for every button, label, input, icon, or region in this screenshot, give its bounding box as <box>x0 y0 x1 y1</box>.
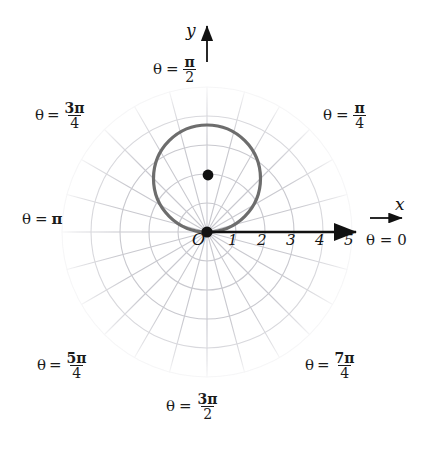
theta-symbol: θ <box>323 108 332 123</box>
grid-ray-255 <box>170 232 208 372</box>
grid-ray-240 <box>135 232 208 358</box>
radial-tick-2: 2 <box>257 233 267 248</box>
angle-label-pi-over-4: θ = π 4 <box>323 101 367 131</box>
fraction-numerator: π <box>353 101 367 115</box>
fraction: π 2 <box>183 55 197 85</box>
origin-label: O <box>192 232 205 248</box>
angle-label-5pi-over-4: θ = 5π 4 <box>37 351 89 381</box>
theta-symbol: θ <box>35 108 44 123</box>
equals-symbol: = <box>166 62 179 77</box>
angle-label-3pi-over-4: θ = 3π 4 <box>35 101 87 131</box>
fraction-numerator: 3π <box>63 101 87 115</box>
x-axis-label: x <box>395 196 405 213</box>
grid-ray-285 <box>207 232 245 372</box>
angle-label-7pi-over-4: θ = 7π 4 <box>305 351 357 381</box>
angle-label-pi: θ = π <box>22 212 63 227</box>
fraction-denominator: 2 <box>201 406 214 421</box>
grid-ray-105 <box>170 92 208 232</box>
radial-tick-3: 3 <box>286 233 296 248</box>
fraction: 3π 4 <box>63 101 87 131</box>
fraction-denominator: 4 <box>353 115 366 130</box>
angle-label-3pi-over-2: θ = 3π 2 <box>166 392 220 422</box>
fraction: 3π 2 <box>196 392 220 422</box>
grid-ray-300 <box>207 232 280 358</box>
fraction-denominator: 4 <box>338 365 351 380</box>
equals-symbol: = <box>336 108 349 123</box>
pi-symbol: π <box>52 212 63 227</box>
theta-symbol: θ <box>37 358 46 373</box>
fraction: 5π 4 <box>65 351 89 381</box>
radial-tick-1: 1 <box>228 233 238 248</box>
fraction: π 4 <box>353 101 367 131</box>
equals-symbol: = <box>47 108 60 123</box>
grid-ray-195 <box>67 232 207 270</box>
fraction-denominator: 2 <box>183 69 196 84</box>
grid-ray-210 <box>81 232 207 305</box>
y-axis-label: y <box>186 22 196 39</box>
fraction-numerator: π <box>183 55 197 69</box>
grid-ray-330 <box>207 232 333 305</box>
equals-symbol: = <box>35 212 48 227</box>
grid-ray-30 <box>207 160 333 233</box>
circle-center-point-marker <box>203 170 214 181</box>
theta-symbol: θ <box>305 358 314 373</box>
grid-ray-135 <box>105 130 208 233</box>
equals-symbol: = <box>49 358 62 373</box>
equals-symbol: = <box>179 399 192 414</box>
theta-symbol: θ <box>22 212 31 227</box>
theta-symbol: θ <box>153 62 162 77</box>
radial-tick-5: 5 <box>344 233 354 248</box>
fraction-numerator: 3π <box>196 392 220 406</box>
fraction-denominator: 4 <box>68 115 81 130</box>
radial-tick-4: 4 <box>315 233 325 248</box>
theta-zero-label: θ = 0 <box>366 233 407 248</box>
grid-ray-150 <box>81 160 207 233</box>
equals-symbol: = <box>317 358 330 373</box>
grid-ray-45 <box>207 130 310 233</box>
fraction-numerator: 5π <box>65 351 89 365</box>
fraction: 7π 4 <box>333 351 357 381</box>
polar-plot-figure <box>0 0 434 450</box>
grid-ray-75 <box>207 92 245 232</box>
fraction-numerator: 7π <box>333 351 357 365</box>
fraction-denominator: 4 <box>70 365 83 380</box>
theta-symbol: θ <box>166 399 175 414</box>
angle-label-pi-over-2: θ = π 2 <box>153 55 197 85</box>
